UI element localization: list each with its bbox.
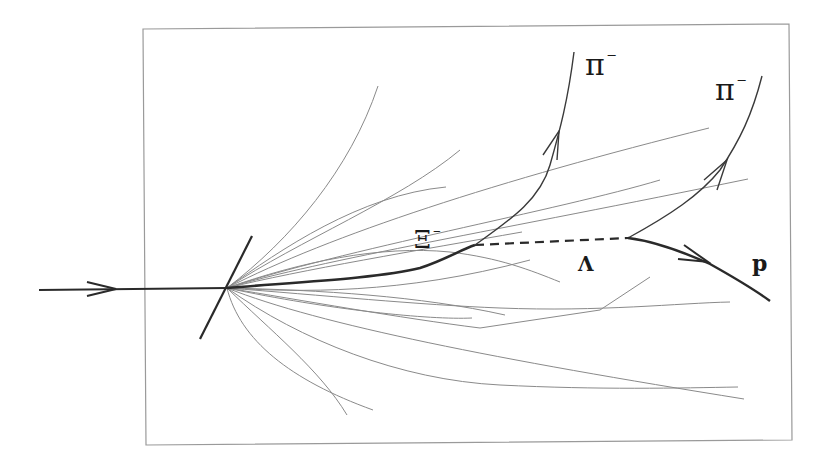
pi-minus-1-track <box>475 52 574 245</box>
particle-track-diagram <box>0 0 824 465</box>
xi-charge: − <box>433 224 441 239</box>
track-upper-8 <box>227 250 560 288</box>
incoming-beam-track <box>39 288 227 290</box>
label-proton: p <box>752 252 767 274</box>
xi-symbol: Ξ <box>414 226 431 254</box>
track-lower-1 <box>227 288 738 388</box>
label-pi-minus-1: π− <box>585 50 616 80</box>
label-xi-minus: Ξ− <box>414 228 441 252</box>
track-upper-7 <box>227 179 748 288</box>
pi2-charge: − <box>737 71 747 89</box>
pi2-symbol: π <box>715 72 735 107</box>
track-upper-6 <box>227 232 522 288</box>
proton-track <box>628 238 770 301</box>
pi-minus-1-arrow-icon <box>543 131 559 160</box>
lambda-symbol: Λ <box>578 252 594 276</box>
track-upper-5 <box>227 180 660 288</box>
pi1-charge: − <box>607 46 617 64</box>
track-mid-4 <box>227 277 650 328</box>
track-upper-1 <box>227 86 378 288</box>
label-lambda: Λ <box>578 254 594 274</box>
background-tracks <box>227 86 748 415</box>
track-lower-2 <box>227 288 347 415</box>
track-lower-3 <box>227 288 373 410</box>
proton-symbol: p <box>752 250 767 276</box>
label-pi-minus-2: π− <box>715 75 746 105</box>
pi1-symbol: π <box>585 47 605 82</box>
track-upper-4 <box>227 128 709 288</box>
lambda-track <box>475 238 628 245</box>
